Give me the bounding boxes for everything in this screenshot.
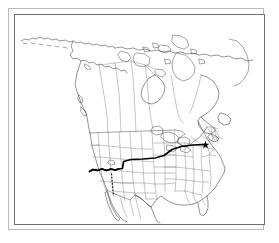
alaska-coastline (21, 37, 115, 48)
mexico-internal-borders (120, 195, 141, 219)
ellesmere-island (172, 35, 189, 49)
ontario-quebec-border (171, 75, 183, 123)
victoria-island (133, 53, 150, 67)
alberta-sask-border (115, 63, 121, 132)
figure-root (0, 0, 279, 243)
arctic-small-islands (143, 43, 205, 64)
nunavut-border (145, 65, 155, 75)
alaska-panhandle (75, 61, 85, 111)
aleutian-islands (23, 43, 67, 48)
hudson-bay-coastline (141, 75, 165, 104)
baja-california (105, 192, 120, 221)
state-borders-plains (153, 131, 176, 191)
figure-inner-frame (14, 14, 265, 225)
state-borders-southwest (101, 169, 135, 201)
canada-west-coast (85, 111, 90, 133)
manitoba-ontario-border (145, 65, 153, 129)
mexico-east-coast (151, 207, 160, 223)
route-transcontinental-line (90, 145, 206, 172)
greenland-edge (229, 39, 249, 86)
southampton-island (155, 69, 166, 77)
newfoundland (218, 113, 231, 125)
canada-region (85, 35, 253, 142)
north-america-map (15, 15, 264, 224)
great-salt-lake (108, 160, 115, 165)
bc-alberta-border (99, 65, 108, 132)
kodiak-island (85, 64, 91, 70)
quebec-labrador-border (190, 75, 201, 113)
sask-manitoba-border (131, 61, 136, 132)
banks-island (118, 51, 131, 62)
mexico-region (105, 190, 160, 223)
alaska-region (21, 37, 127, 116)
labrador-coast (201, 75, 219, 117)
state-borders-southeast (175, 155, 211, 205)
baffin-island (172, 53, 195, 81)
